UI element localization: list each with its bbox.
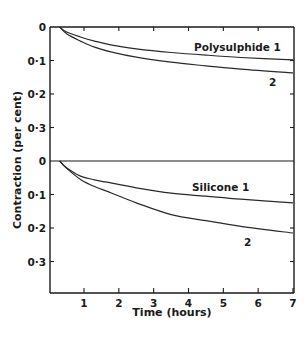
label-silicone-1: Silicone 1: [192, 181, 249, 193]
x-axis-title: Time (hours): [132, 306, 211, 319]
y-axis-title: Contraction (per cent): [11, 91, 24, 229]
axes: [50, 27, 294, 293]
x-tick-label: 7: [289, 297, 296, 309]
label-polysulphide-2: 2: [269, 76, 276, 88]
data-curves: [60, 27, 293, 233]
y-tick-label: 0·3: [27, 256, 46, 268]
curve-silicone-1: [60, 161, 293, 203]
y-tick-label: 0·2: [27, 88, 46, 100]
y-tick-label: 0: [39, 155, 46, 167]
y-tick-label: 0: [39, 21, 46, 33]
curve-silicone-2: [60, 161, 293, 233]
y-tick-label: 0·1: [27, 189, 46, 201]
tick-marks: [50, 27, 294, 293]
y-tick-label: 0·1: [27, 55, 46, 67]
contraction-chart: 00·10·20·300·10·20·31234567 Polysulphide…: [0, 0, 307, 337]
x-tick-label: 6: [255, 297, 262, 309]
label-polysulphide-1: Polysulphide 1: [194, 41, 281, 53]
y-tick-label: 0·2: [27, 222, 46, 234]
x-tick-label: 1: [80, 297, 87, 309]
tick-labels: 00·10·20·300·10·20·31234567: [27, 21, 296, 309]
x-tick-label: 5: [220, 297, 227, 309]
x-tick-label: 2: [115, 297, 122, 309]
label-silicone-2: 2: [244, 236, 251, 248]
y-tick-label: 0·3: [27, 122, 46, 134]
